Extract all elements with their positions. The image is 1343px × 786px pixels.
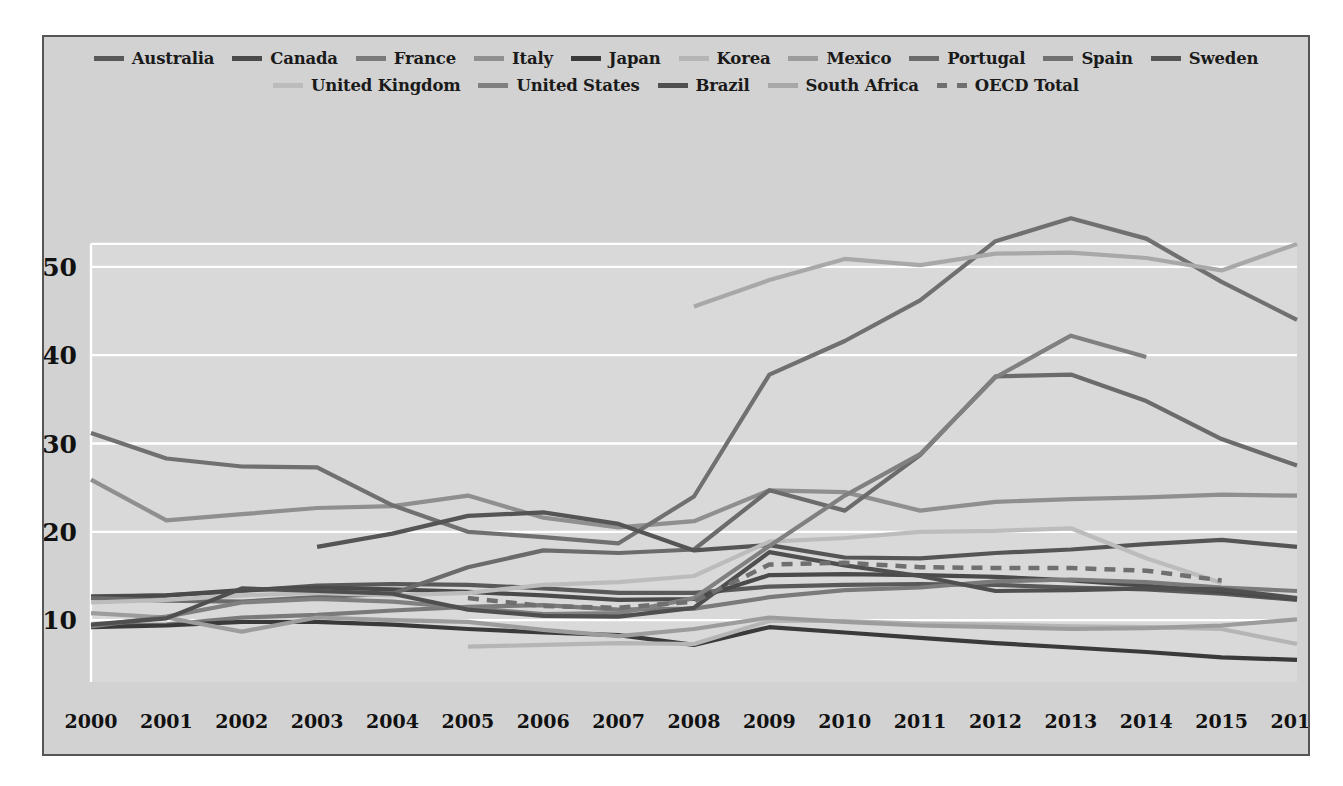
x-tick-label: 2015: [1195, 710, 1248, 732]
x-tick-label: 2010: [818, 710, 871, 732]
x-tick-label: 2011: [894, 710, 947, 732]
x-tick-label: 2000: [65, 710, 118, 732]
x-tick-label: 2016: [1271, 710, 1308, 732]
chart-frame: AustraliaCanadaFranceItalyJapanKoreaMexi…: [42, 35, 1310, 756]
y-tick-label: 10: [44, 606, 77, 635]
plot-area: 1020304050 20002001200220032004200520062…: [44, 37, 1308, 754]
x-tick-label: 2014: [1120, 710, 1173, 732]
x-axis-tick-labels: 2000200120022003200420052006200720082009…: [65, 710, 1308, 732]
x-tick-label: 2012: [969, 710, 1022, 732]
x-tick-label: 2003: [291, 710, 344, 732]
y-tick-label: 50: [44, 253, 77, 282]
x-tick-label: 2013: [1044, 710, 1097, 732]
x-tick-label: 2006: [517, 710, 570, 732]
line-chart-svg: 1020304050 20002001200220032004200520062…: [44, 37, 1308, 754]
x-tick-label: 2004: [366, 710, 419, 732]
y-tick-label: 20: [44, 518, 77, 547]
x-tick-label: 2007: [592, 710, 645, 732]
x-tick-label: 2008: [668, 710, 721, 732]
y-axis-tick-labels: 1020304050: [44, 253, 77, 635]
y-tick-label: 40: [44, 341, 77, 370]
x-tick-label: 2009: [743, 710, 796, 732]
y-tick-label: 30: [44, 430, 77, 459]
x-tick-label: 2005: [441, 710, 494, 732]
x-tick-label: 2002: [215, 710, 268, 732]
x-tick-label: 2001: [140, 710, 193, 732]
